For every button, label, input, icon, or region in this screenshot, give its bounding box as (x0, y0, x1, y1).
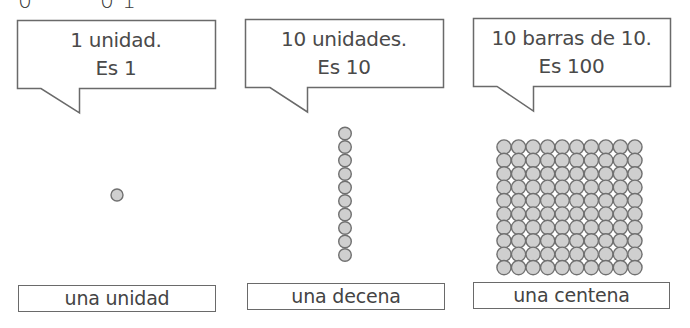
bead (541, 180, 555, 194)
bead (526, 261, 540, 275)
bead (511, 220, 525, 234)
bead (526, 247, 540, 261)
bead (570, 261, 584, 275)
bead (584, 220, 598, 234)
bead (628, 180, 642, 194)
bead (511, 207, 525, 221)
bubble-line-1: 10 barras de 10. (473, 24, 670, 52)
bead (526, 194, 540, 208)
bead (511, 180, 525, 194)
bead (526, 140, 540, 154)
label-box: una decena (247, 283, 445, 310)
bead (584, 207, 598, 221)
bead (628, 234, 642, 248)
bead (497, 261, 511, 275)
bead (584, 234, 598, 248)
bead (613, 207, 627, 221)
bead (584, 140, 598, 154)
bead (497, 153, 511, 167)
bead (613, 234, 627, 248)
bead (599, 180, 613, 194)
bead (511, 167, 525, 181)
bead (541, 167, 555, 181)
bead (526, 207, 540, 221)
bead (497, 207, 511, 221)
bead (526, 153, 540, 167)
bead (541, 140, 555, 154)
bead (541, 234, 555, 248)
bead (599, 140, 613, 154)
bead (584, 167, 598, 181)
bead (570, 153, 584, 167)
bead (628, 247, 642, 261)
bead (613, 180, 627, 194)
bead (613, 247, 627, 261)
bead (511, 194, 525, 208)
bead (497, 167, 511, 181)
bead (628, 153, 642, 167)
bead (555, 167, 569, 181)
bead (541, 194, 555, 208)
bead (599, 153, 613, 167)
bead (526, 167, 540, 181)
bead (570, 247, 584, 261)
bead (541, 247, 555, 261)
bubble-line-1: 10 unidades. (245, 25, 443, 53)
bubble-text: 10 unidades. Es 10 (245, 25, 443, 81)
bead (555, 234, 569, 248)
bead (511, 140, 525, 154)
bead (570, 140, 584, 154)
bead (511, 153, 525, 167)
bead (599, 247, 613, 261)
bead (526, 220, 540, 234)
bead (497, 234, 511, 248)
bead (628, 167, 642, 181)
label-box: una centena (473, 282, 670, 309)
bead (613, 153, 627, 167)
bead (497, 220, 511, 234)
bead (570, 194, 584, 208)
bead (599, 167, 613, 181)
bead-single-icon (0, 0, 230, 328)
bead (541, 261, 555, 275)
bead (555, 207, 569, 221)
bead (555, 180, 569, 194)
bead (613, 167, 627, 181)
bead (613, 194, 627, 208)
bead (526, 234, 540, 248)
bead (584, 247, 598, 261)
bead (497, 247, 511, 261)
bead (541, 207, 555, 221)
bead (526, 180, 540, 194)
bead (511, 261, 525, 275)
bead (511, 234, 525, 248)
bead (555, 194, 569, 208)
bead (599, 234, 613, 248)
bead (555, 153, 569, 167)
bubble-text: 10 barras de 10. Es 100 (473, 24, 670, 80)
label-text: una centena (513, 284, 630, 306)
bead (555, 261, 569, 275)
label-text: una decena (291, 285, 400, 307)
bead (555, 247, 569, 261)
label-box: una unidad (18, 285, 216, 312)
bead (541, 220, 555, 234)
bead (628, 194, 642, 208)
bead (497, 194, 511, 208)
bead (570, 234, 584, 248)
bubble-line-2: Es 10 (245, 53, 443, 81)
bead (599, 261, 613, 275)
bead (628, 220, 642, 234)
bead (511, 247, 525, 261)
bead (628, 140, 642, 154)
label-text: una unidad (65, 287, 170, 309)
bead (599, 194, 613, 208)
bead (613, 261, 627, 275)
panel-unidad: 1 unidad. Es 1 una unidad (0, 0, 230, 328)
bead (570, 167, 584, 181)
bead (541, 153, 555, 167)
bead (570, 220, 584, 234)
bead (570, 207, 584, 221)
bead (613, 220, 627, 234)
bead (613, 140, 627, 154)
